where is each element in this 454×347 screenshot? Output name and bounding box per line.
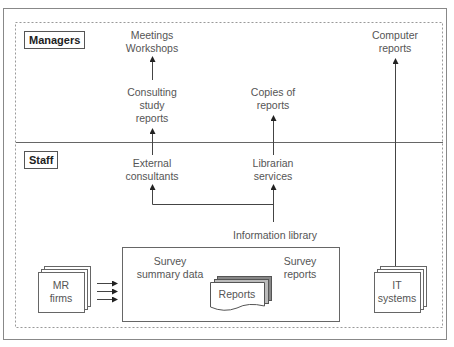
reports-text: reports — [355, 42, 435, 55]
workshops-text: Workshops — [112, 42, 192, 55]
managers-label: Managers — [24, 31, 85, 49]
firms-text: firms — [38, 292, 84, 305]
systems-text: systems — [374, 292, 420, 305]
librarian-services-label: Librarian services — [233, 157, 313, 183]
copies-of-text: Copies of — [233, 86, 313, 99]
reports-text: reports — [112, 112, 192, 125]
it-systems-label: IT systems — [374, 279, 420, 305]
survey-reports-label: Survey reports — [270, 255, 330, 281]
information-library-label: Information library — [225, 229, 325, 242]
it-text: IT — [374, 279, 420, 292]
mr-firms-label: MR firms — [38, 279, 84, 305]
librarian-text: Librarian — [233, 157, 313, 170]
study-text: study — [112, 99, 192, 112]
reports-document-label: Reports — [210, 288, 264, 301]
staff-label: Staff — [24, 151, 58, 169]
mr-text: MR — [38, 279, 84, 292]
services-text: services — [233, 170, 313, 183]
survey-summary-data-label: Survey summary data — [130, 255, 210, 281]
computer-reports-label: Computer reports — [355, 29, 435, 55]
reports-text: reports — [233, 99, 313, 112]
survey-text: Survey — [130, 255, 210, 268]
reports-text: reports — [270, 268, 330, 281]
computer-text: Computer — [355, 29, 435, 42]
consulting-study-reports-label: Consulting study reports — [112, 86, 192, 125]
external-text: External — [112, 157, 192, 170]
meetings-text: Meetings — [112, 29, 192, 42]
external-consultants-label: External consultants — [112, 157, 192, 183]
arrow-library-to-external — [153, 187, 274, 205]
summary-data-text: summary data — [130, 268, 210, 281]
consulting-text: Consulting — [112, 86, 192, 99]
copies-of-reports-label: Copies of reports — [233, 86, 313, 112]
meetings-workshops-label: Meetings Workshops — [112, 29, 192, 55]
consultants-text: consultants — [112, 170, 192, 183]
survey-text: Survey — [270, 255, 330, 268]
